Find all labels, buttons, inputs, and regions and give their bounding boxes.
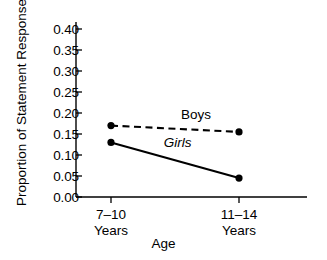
chart-plot-area bbox=[0, 0, 327, 260]
data-point-marker bbox=[107, 139, 114, 146]
data-point-marker bbox=[107, 122, 114, 129]
y-axis-title: Proportion of Statement Responses bbox=[14, 0, 29, 206]
y-tick-label: 0.10 bbox=[53, 148, 79, 163]
data-point-marker bbox=[235, 128, 242, 135]
x-axis-title: Age bbox=[151, 236, 175, 251]
y-tick-label: 0.40 bbox=[53, 22, 79, 37]
x-tick-label-range: 7–10 bbox=[96, 207, 126, 222]
y-tick-label: 0.25 bbox=[53, 85, 79, 100]
y-tick-label: 0.35 bbox=[53, 43, 79, 58]
y-tick-label: 0.20 bbox=[53, 106, 79, 121]
series-lines bbox=[111, 126, 239, 179]
data-point-marker bbox=[235, 175, 242, 182]
x-tick-label-unit: Years bbox=[222, 223, 256, 238]
x-tick-label-range: 11–14 bbox=[221, 207, 258, 222]
y-tick-label: 0.05 bbox=[53, 169, 79, 184]
y-tick-label: 0.15 bbox=[53, 127, 79, 142]
series-label-boys: Boys bbox=[181, 107, 211, 122]
series-line-boys bbox=[111, 126, 239, 132]
chart-container: 0.000.050.100.150.200.250.300.350.40 7–1… bbox=[0, 0, 327, 260]
x-axis-ticks bbox=[111, 197, 239, 203]
series-label-girls: Girls bbox=[164, 135, 192, 150]
y-tick-label: 0.00 bbox=[53, 190, 79, 205]
x-tick-label-unit: Years bbox=[94, 223, 128, 238]
y-tick-label: 0.30 bbox=[53, 64, 79, 79]
